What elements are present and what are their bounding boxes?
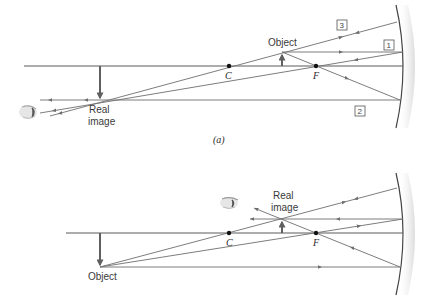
object-label-b: Object	[88, 271, 117, 282]
object-label-a: Object	[268, 37, 297, 48]
svg-text:1: 1	[387, 41, 392, 50]
ray-number-3: 3	[337, 20, 347, 30]
ray-diagram-canvas: C F Object Real image 3 1 2 (a)	[0, 0, 431, 297]
real-image-label-b-line2: image	[271, 202, 299, 213]
concave-mirror-b	[396, 173, 415, 295]
eye-icon	[19, 105, 37, 119]
panel-b: C F Real image Object	[66, 173, 415, 295]
real-image-label-a-line1: Real	[89, 104, 110, 115]
focal-point-b	[314, 231, 318, 235]
ray-number-1: 1	[384, 40, 394, 50]
ray-reflected-through-f-b	[254, 208, 400, 267]
svg-text:2: 2	[358, 107, 363, 116]
center-label-a: C	[225, 70, 232, 81]
ray-number-2: 2	[355, 106, 365, 116]
center-point-a	[227, 64, 231, 68]
real-image-label-a-line2: image	[88, 116, 116, 127]
ray-through-c-b	[100, 188, 397, 267]
eye-icon-b	[220, 197, 238, 209]
focal-label-a: F	[312, 70, 320, 81]
focal-point-a	[314, 64, 318, 68]
real-image-label-b-line1: Real	[273, 190, 294, 201]
ray-2-incident	[282, 52, 400, 100]
center-point-b	[227, 231, 231, 235]
focal-label-b: F	[312, 237, 320, 248]
ray-3	[50, 22, 397, 116]
panel-a: C F Object Real image 3 1 2 (a)	[19, 5, 415, 146]
svg-text:3: 3	[340, 21, 345, 30]
caption-a: (a)	[213, 134, 225, 146]
center-label-b: C	[226, 237, 233, 248]
